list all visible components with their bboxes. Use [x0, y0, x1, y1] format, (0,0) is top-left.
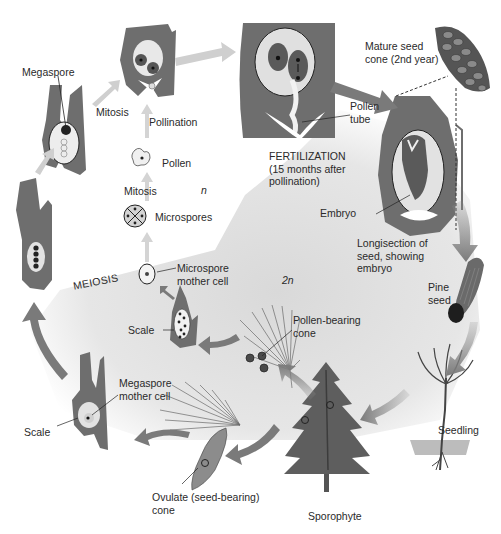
ovule-with-megaspores	[16, 178, 52, 290]
label-megaspore: Megaspore	[22, 66, 75, 79]
pollen-grain	[132, 148, 150, 165]
label-megaspore-mother-cell: Megaspore mother cell	[119, 377, 172, 402]
label-haploid-n: n	[201, 184, 207, 197]
label-longisection: Longisection of seed, showing embryo	[357, 237, 428, 275]
label-pollen: Pollen	[162, 157, 191, 170]
fertilization-ovule	[240, 23, 336, 140]
label-microspores: Microspores	[155, 211, 212, 224]
label-scale-lower: Scale	[24, 426, 50, 439]
label-microspore-mother-cell: Microspore mother cell	[177, 262, 229, 287]
label-sporophyte: Sporophyte	[308, 510, 362, 523]
label-embryo: Embryo	[320, 207, 356, 220]
seed-longisection	[378, 96, 462, 236]
label-diploid-2n: 2n	[282, 274, 294, 287]
label-mature-seed-cone: Mature seed cone (2nd year)	[365, 40, 439, 65]
microspores-tetrad	[124, 205, 146, 227]
label-mitosis-1: Mitosis	[96, 106, 129, 119]
label-pollen-bearing-cone: Pollen-bearing cone	[293, 314, 361, 339]
label-seedling: Seedling	[438, 424, 479, 437]
label-scale-upper: Scale	[128, 324, 154, 337]
pine-life-cycle-diagram: Megaspore Mitosis Pollination Pollen Mit…	[0, 0, 501, 534]
pollinated-ovule	[120, 24, 176, 97]
label-pollen-tube: Pollen tube	[350, 100, 379, 125]
label-pine-seed: Pine seed	[428, 281, 451, 306]
label-pollination: Pollination	[149, 116, 197, 129]
label-mitosis-2: Mitosis	[124, 185, 157, 198]
label-ovulate-cone: Ovulate (seed-bearing) cone	[152, 491, 259, 516]
label-fertilization: FERTILIZATION (15 months after pollinati…	[269, 150, 346, 188]
